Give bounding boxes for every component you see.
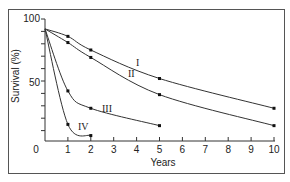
x-tick-label: 7 bbox=[203, 144, 209, 155]
x-tick-label: 3 bbox=[111, 144, 117, 155]
data-point bbox=[66, 123, 69, 126]
data-point bbox=[89, 49, 92, 52]
data-point bbox=[66, 89, 69, 92]
x-tick-label: 1 bbox=[65, 144, 71, 155]
axes: 012345678910 bbox=[33, 19, 280, 155]
x-tick-label: 5 bbox=[157, 144, 163, 155]
x-tick-label: 0 bbox=[33, 144, 39, 155]
data-point bbox=[158, 124, 161, 127]
x-tick-label: 10 bbox=[268, 144, 280, 155]
data-point bbox=[158, 93, 161, 96]
y-tick-50: 50 bbox=[29, 77, 41, 88]
data-point bbox=[89, 134, 92, 137]
curve-iv bbox=[45, 29, 91, 136]
curve-label-iii: III bbox=[102, 103, 112, 114]
x-tick-label: 8 bbox=[225, 144, 231, 155]
y-axis-title: Survival (%) bbox=[10, 49, 21, 103]
curve-label-i: I bbox=[136, 57, 139, 68]
x-tick-label: 2 bbox=[88, 144, 94, 155]
y-tick-100: 100 bbox=[23, 13, 40, 24]
chart-frame bbox=[9, 10, 285, 174]
data-point bbox=[89, 56, 92, 59]
x-tick-label: 4 bbox=[134, 144, 140, 155]
x-axis-title: Years bbox=[150, 157, 175, 168]
x-tick-label: 6 bbox=[180, 144, 186, 155]
data-point bbox=[273, 124, 276, 127]
data-point bbox=[273, 107, 276, 110]
data-point bbox=[89, 107, 92, 110]
data-point bbox=[158, 77, 161, 80]
x-tick-label: 9 bbox=[248, 144, 254, 155]
survival-chart: 012345678910 100 50 Years Survival (%) I… bbox=[0, 0, 290, 182]
data-point bbox=[66, 41, 69, 44]
curve-i bbox=[45, 29, 274, 108]
curve-label-iv: IV bbox=[78, 121, 89, 132]
curve-label-ii: II bbox=[128, 68, 135, 79]
data-point bbox=[66, 35, 69, 38]
